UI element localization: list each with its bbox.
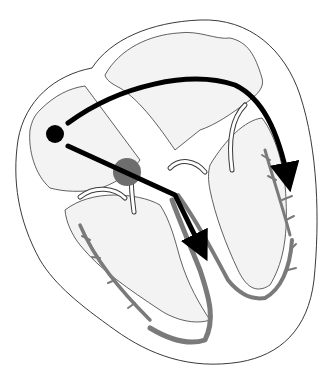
heart-conduction-diagram (0, 0, 332, 381)
sa-node (46, 125, 64, 143)
